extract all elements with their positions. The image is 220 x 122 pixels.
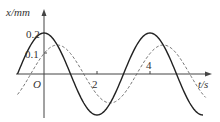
origin-label: O — [33, 78, 41, 90]
x-axis-arrow-icon — [205, 72, 212, 77]
y-axis-label: x/mm — [5, 6, 30, 18]
x-axis-label: t/s — [198, 78, 208, 90]
y-tick-label-02: 0.2 — [26, 28, 40, 40]
y-axis-arrow-icon — [42, 9, 47, 16]
x-tick-label-2: 2 — [92, 78, 98, 90]
chart-container: x/mm 0.2 0.1 O 2 4 t/s — [0, 0, 220, 122]
y-tick-label-01: 0.1 — [25, 48, 39, 60]
chart-svg: x/mm 0.2 0.1 O 2 4 t/s — [0, 0, 220, 122]
x-tick-label-4: 4 — [146, 59, 152, 71]
